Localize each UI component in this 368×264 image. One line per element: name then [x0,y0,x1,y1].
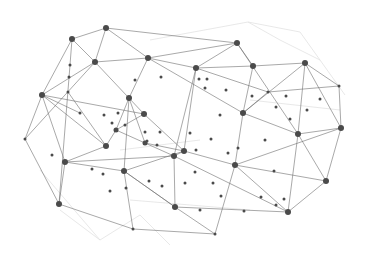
network-node [117,112,120,115]
network-node [338,85,341,88]
network-node [171,153,177,159]
network-node [134,79,137,82]
network-node [283,198,286,201]
network-node [172,204,178,210]
network-node [323,178,329,184]
network-node [264,139,267,142]
network-node [206,78,209,81]
network-node [212,182,215,185]
network-node [103,114,106,117]
network-node [306,109,309,112]
network-node [111,122,114,125]
network-node [69,64,72,67]
network-node [220,195,223,198]
network-node [219,114,222,117]
network-node [210,138,213,141]
network-node [267,91,270,94]
network-node [232,162,238,168]
network-node [56,201,62,207]
network-nodes [24,25,345,236]
network-node [285,95,288,98]
network-node [67,91,70,94]
network-node [240,110,246,116]
network-node [199,209,202,212]
network-node [114,128,119,133]
network-node [194,171,197,174]
network-node [338,125,344,131]
network-node [69,36,75,42]
network-node [195,149,198,152]
network-node [103,143,109,149]
network-node [319,98,322,101]
network-node [144,131,147,134]
network-node [184,182,187,185]
network-node [198,78,201,81]
network-node [275,106,278,109]
network-node [227,152,230,155]
network-node [273,170,276,173]
network-node [125,187,128,190]
network-node [251,95,254,98]
network-node [126,95,132,101]
network-graphic [0,0,368,264]
network-node [132,228,135,231]
network-node [193,65,199,71]
network-node [92,59,98,65]
network-node [289,118,292,121]
network-node [302,60,308,66]
network-node [145,55,151,61]
network-node [79,112,82,115]
network-node [39,92,45,98]
network-node [214,233,217,236]
network-node [225,89,228,92]
network-node [189,132,192,135]
network-node [51,154,54,157]
network-node [109,190,112,193]
network-node [250,63,256,69]
network-node [156,144,159,147]
network-node [146,140,149,143]
network-node [161,185,164,188]
network-node [159,131,162,134]
network-node [275,204,278,207]
network-node [204,87,207,90]
network-node [62,159,68,165]
network-node [237,147,240,150]
network-node [260,196,263,199]
network-edges [25,28,341,234]
network-node [243,210,246,213]
network-node [141,111,147,117]
network-node [285,209,291,215]
network-node [68,76,71,79]
network-node [24,138,27,141]
network-node [124,124,127,127]
network-mesh-illustration [0,0,368,264]
network-node [234,40,240,46]
network-node [148,180,151,183]
network-node [91,168,94,171]
network-node [121,168,127,174]
network-node [160,76,163,79]
network-node [295,131,301,137]
network-node [181,148,187,154]
network-node [102,173,105,176]
network-node [103,25,109,31]
